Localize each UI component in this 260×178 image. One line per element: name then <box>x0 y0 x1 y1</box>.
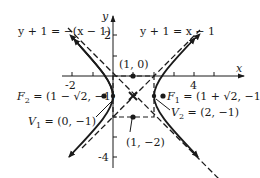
label-top-midpoint: (1, 0) <box>119 58 149 71</box>
asymptote-label-left: y + 1 = −(x − 1) <box>17 25 111 38</box>
y-tick-label-neg4: -4 <box>98 151 109 164</box>
label-bottom-midpoint: (1, −2) <box>126 136 165 149</box>
label-focus-right: F1 = (1 + √2, −1) <box>166 90 260 105</box>
x-axis-label: x <box>236 62 243 75</box>
label-focus-left: F2 = (1 − √2, −1) <box>16 90 115 105</box>
asymptote-positive-slope <box>82 30 200 148</box>
point-vertex-right <box>152 94 156 98</box>
asymptote-label-right: y + 1 = x − 1 <box>139 25 215 38</box>
y-axis-label: y <box>101 10 109 23</box>
point-top-midpoint <box>130 73 135 78</box>
label-vertex-right: V2 = (2, −1) <box>171 106 239 121</box>
label-vertex-left: V1 = (0, −1) <box>28 115 96 130</box>
point-focus-right <box>160 93 165 98</box>
hyperbola-diagram: x y -2 4 2 -4 y + 1 = −(x − 1) y + 1 = x… <box>0 0 260 178</box>
point-bottom-midpoint <box>130 114 135 119</box>
hyperbola-right-branch <box>154 38 195 96</box>
leader-bottom-midpoint <box>130 119 132 132</box>
